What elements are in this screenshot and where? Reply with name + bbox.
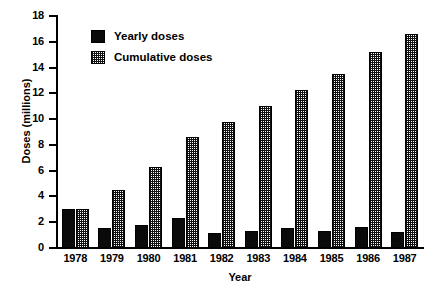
y-axis-tick-label: 2 [4, 216, 44, 227]
y-axis-tick [49, 221, 57, 223]
bar-yearly-1978 [62, 209, 75, 248]
legend-label: Yearly doses [114, 30, 184, 42]
bar-cumulative-1986 [369, 52, 382, 248]
x-axis-tick-label-1987: 1987 [385, 253, 425, 264]
legend-item-cumulative-doses: Cumulative doses [91, 50, 212, 64]
bar-yearly-1981 [172, 218, 185, 248]
x-axis-tick-label-1986: 1986 [348, 253, 388, 264]
bar-cumulative-1987 [405, 34, 418, 248]
bar-yearly-1980 [135, 225, 148, 248]
legend-label: Cumulative doses [114, 51, 212, 63]
bar-yearly-1979 [98, 228, 111, 248]
bar-yearly-1982 [208, 233, 221, 248]
x-axis-tick-label-1981: 1981 [165, 253, 205, 264]
y-axis-tick-label: 0 [4, 242, 44, 253]
x-axis-tick-label-1983: 1983 [238, 253, 278, 264]
y-axis-tick [49, 144, 57, 146]
y-axis-tick [49, 67, 57, 69]
y-axis-tick [49, 92, 57, 94]
bar-yearly-1984 [281, 228, 294, 248]
bar-cumulative-1979 [112, 190, 125, 248]
y-axis-tick [49, 170, 57, 172]
bar-yearly-1986 [355, 227, 368, 248]
x-axis-tick-label-1984: 1984 [275, 253, 315, 264]
bar-yearly-1983 [245, 231, 258, 248]
y-axis-tick [49, 41, 57, 43]
bar-yearly-1985 [318, 231, 331, 248]
x-axis-tick-label-1978: 1978 [55, 253, 95, 264]
bar-cumulative-1982 [222, 122, 235, 248]
legend-swatch-icon [91, 30, 105, 43]
y-axis-tick [49, 195, 57, 197]
y-axis-tick-label: 18 [4, 10, 44, 21]
x-axis-tick-label-1979: 1979 [92, 253, 132, 264]
bar-cumulative-1981 [186, 137, 199, 248]
y-axis-tick [49, 118, 57, 120]
chart-legend: Yearly dosesCumulative doses [91, 29, 212, 71]
bar-chart: 024681012141618 Doses (millions) Year 19… [0, 0, 435, 292]
bar-cumulative-1980 [149, 167, 162, 248]
legend-item-yearly-doses: Yearly doses [91, 29, 212, 43]
y-axis-tick [49, 15, 57, 17]
bar-yearly-1987 [391, 232, 404, 248]
x-axis-tick-label-1980: 1980 [129, 253, 169, 264]
x-axis-title: Year [57, 271, 423, 283]
x-axis-tick-label-1985: 1985 [312, 253, 352, 264]
bar-cumulative-1978 [76, 209, 89, 248]
x-axis-tick-label-1982: 1982 [202, 253, 242, 264]
bar-cumulative-1983 [259, 106, 272, 248]
bar-cumulative-1984 [295, 90, 308, 248]
legend-swatch-icon [91, 51, 105, 64]
y-axis-tick [49, 247, 57, 249]
bar-cumulative-1985 [332, 74, 345, 248]
y-axis-title: Doses (millions) [20, 41, 32, 201]
